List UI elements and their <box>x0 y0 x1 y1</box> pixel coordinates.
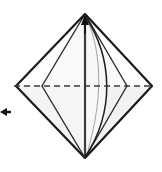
origami-figure-container: Diamond-shaped folded paper seen from th… <box>0 0 162 172</box>
origami-diagram <box>0 0 162 172</box>
